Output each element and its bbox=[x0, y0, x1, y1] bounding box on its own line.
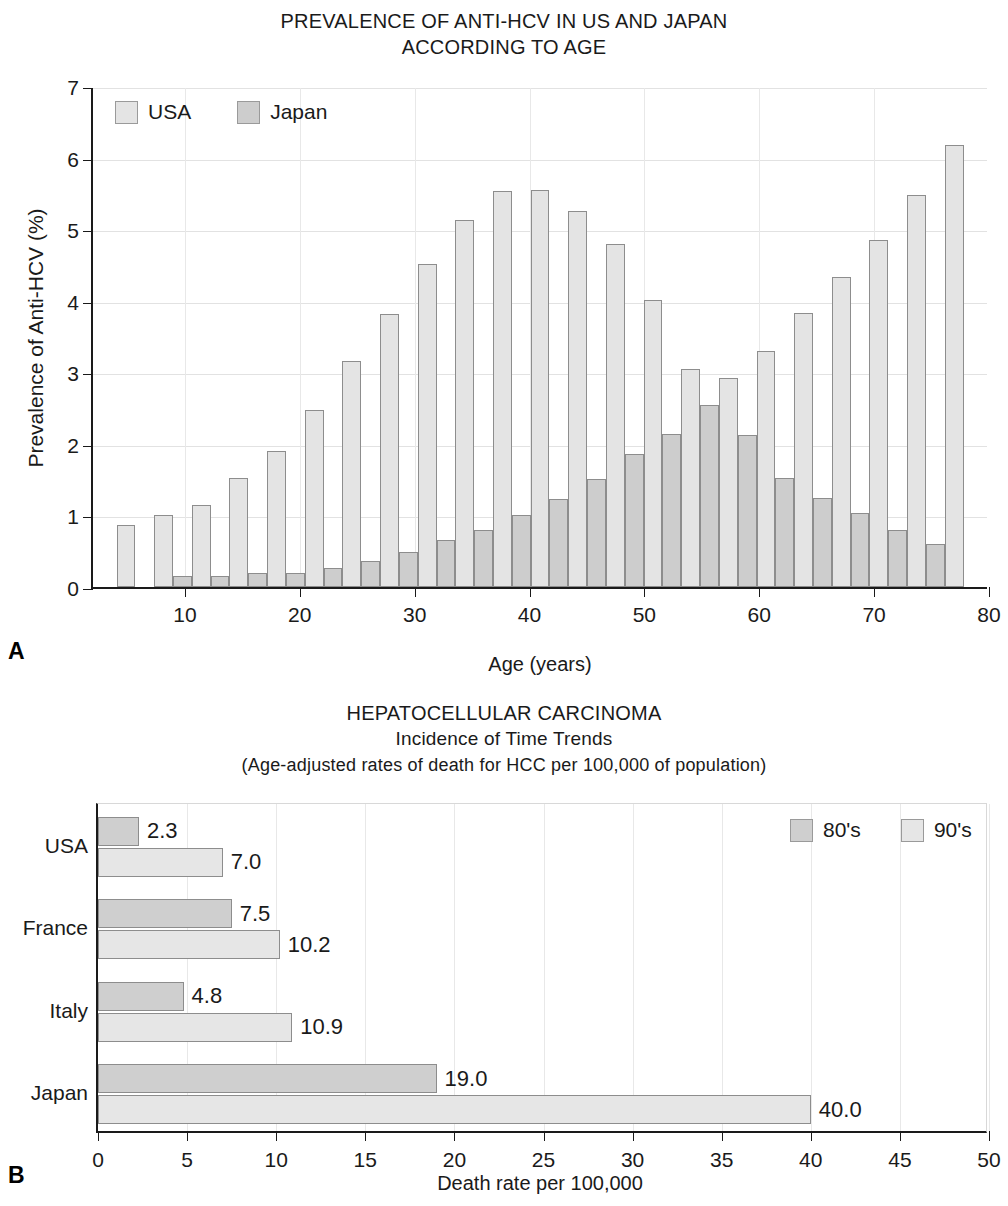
panel-a-title-line-1: PREVALENCE OF ANTI-HCV IN US AND JAPAN bbox=[0, 8, 1008, 34]
panel-b-plot-area: 051015202530354045502.37.07.510.24.810.9… bbox=[96, 803, 987, 1133]
panel-a-bar-usa bbox=[907, 195, 926, 587]
panel-a-bar-japan bbox=[437, 540, 456, 587]
panel-b-bar-80s bbox=[98, 1064, 437, 1093]
panel-a-bar-usa bbox=[418, 264, 437, 588]
panel-a-bar-usa bbox=[267, 451, 286, 587]
panel-b-x-tick bbox=[276, 1131, 277, 1141]
legend-item-usa: USA bbox=[115, 100, 191, 124]
panel-a-bar-usa bbox=[945, 145, 964, 587]
panel-b-title-line-3: (Age-adjusted rates of death for HCC per… bbox=[0, 752, 1008, 778]
panel-b-x-tick bbox=[633, 1131, 634, 1141]
panel-b-x-tick-label: 35 bbox=[710, 1148, 733, 1172]
panel-b-x-tick-label: 30 bbox=[621, 1148, 644, 1172]
panel-a-y-tick-label: 0 bbox=[55, 577, 79, 601]
panel-a-bar-japan bbox=[173, 576, 192, 587]
panel-b-x-tick bbox=[722, 1131, 723, 1141]
panel-a-x-tick bbox=[185, 587, 186, 597]
panel-a-bar-usa bbox=[305, 410, 324, 587]
panel-b-category-label: Italy bbox=[0, 999, 88, 1023]
panel-a-bar-usa bbox=[380, 314, 399, 587]
panel-a-x-tick bbox=[415, 587, 416, 597]
panel-b-x-tick bbox=[900, 1131, 901, 1141]
panel-a-bar-japan bbox=[625, 454, 644, 587]
panel-a-y-tick-label: 7 bbox=[55, 76, 79, 100]
panel-b-category-label: France bbox=[0, 916, 88, 940]
panel-b-x-tick-label: 50 bbox=[977, 1148, 1000, 1172]
panel-b-x-tick bbox=[454, 1131, 455, 1141]
panel-a-x-tick bbox=[759, 587, 760, 597]
panel-a-y-tick-label: 2 bbox=[55, 434, 79, 458]
panel-a-x-tick-label: 80 bbox=[977, 603, 1000, 627]
panel-b-legend: 80's90's bbox=[790, 818, 972, 842]
panel-a-bar-usa bbox=[794, 313, 813, 587]
panel-a-x-tick-label: 20 bbox=[288, 603, 311, 627]
panel-b-x-tick-label: 25 bbox=[532, 1148, 555, 1172]
panel-a-bar-japan bbox=[286, 573, 305, 587]
panel-b-title: HEPATOCELLULAR CARCINOMA Incidence of Ti… bbox=[0, 700, 1008, 778]
panel-a-bar-japan bbox=[211, 576, 230, 587]
legend-item-90s: 90's bbox=[901, 818, 972, 842]
panel-a-x-tick-label: 50 bbox=[633, 603, 656, 627]
panel-a-bar-usa bbox=[832, 277, 851, 587]
panel-a-x-tick bbox=[530, 587, 531, 597]
legend-swatch-japan-icon bbox=[237, 101, 260, 124]
panel-b-bar-80s bbox=[98, 982, 184, 1011]
panel-b-x-tick bbox=[187, 1131, 188, 1141]
legend-item-80s: 80's bbox=[790, 818, 861, 842]
legend-swatch-80s-icon bbox=[790, 819, 813, 842]
panel-a-x-tick bbox=[300, 587, 301, 597]
panel-a-x-tick-label: 10 bbox=[173, 603, 196, 627]
panel-a-y-tick bbox=[83, 231, 93, 232]
panel-a-bar-japan bbox=[248, 573, 267, 587]
panel-a-bar-usa bbox=[493, 191, 512, 588]
panel-b-title-line-2: Incidence of Time Trends bbox=[0, 726, 1008, 752]
panel-a-bar-usa bbox=[342, 361, 361, 587]
panel-a-bar-usa bbox=[606, 244, 625, 587]
panel-a-bar-japan bbox=[662, 434, 681, 587]
panel-a-x-tick-label: 40 bbox=[518, 603, 541, 627]
panel-a-bar-japan bbox=[888, 530, 907, 587]
panel-a-bar-usa bbox=[869, 240, 888, 587]
panel-a-x-tick bbox=[644, 587, 645, 597]
panel-a-gridline bbox=[93, 88, 987, 89]
panel-a-bar-usa bbox=[568, 211, 587, 587]
panel-a-title-line-2: ACCORDING TO AGE bbox=[0, 34, 1008, 60]
panel-b-gridline bbox=[900, 804, 901, 1131]
legend-label-80s: 80's bbox=[823, 818, 861, 842]
panel-a-x-tick bbox=[989, 587, 990, 597]
legend-swatch-90s-icon bbox=[901, 819, 924, 842]
panel-a-y-tick-label: 3 bbox=[55, 362, 79, 386]
panel-a-bar-japan bbox=[324, 568, 343, 587]
panel-a-bar-usa bbox=[719, 378, 738, 587]
panel-b-x-tick-label: 5 bbox=[181, 1148, 193, 1172]
panel-b-x-tick-label: 15 bbox=[354, 1148, 377, 1172]
panel-b-category-label: Japan bbox=[0, 1081, 88, 1105]
panel-b-value-label-80s: 2.3 bbox=[147, 818, 178, 844]
panel-b-value-label-90s: 10.9 bbox=[300, 1014, 343, 1040]
panel-b-value-label-90s: 40.0 bbox=[819, 1097, 862, 1123]
panel-a-bar-japan bbox=[474, 530, 493, 587]
panel-b-gridline bbox=[544, 804, 545, 1131]
panel-a-bar-japan bbox=[399, 552, 418, 587]
panel-a-y-tick bbox=[83, 589, 93, 590]
panel-a-bar-usa bbox=[531, 190, 550, 587]
panel-b-gridline bbox=[722, 804, 723, 1131]
panel-b-title-line-1: HEPATOCELLULAR CARCINOMA bbox=[0, 700, 1008, 726]
panel-b-bar-90s bbox=[98, 848, 223, 877]
panel-a-bar-japan bbox=[775, 478, 794, 588]
panel-a-plot-area: 012345671020304050607080 bbox=[91, 88, 987, 589]
panel-b-gridline bbox=[811, 804, 812, 1131]
legend-swatch-usa-icon bbox=[115, 101, 138, 124]
panel-a-bar-japan bbox=[587, 479, 606, 587]
panel-a-legend: USA Japan bbox=[115, 100, 327, 124]
panel-a-x-tick bbox=[874, 587, 875, 597]
panel-a-bar-usa bbox=[681, 369, 700, 587]
panel-b-x-tick bbox=[98, 1131, 99, 1141]
legend-label-japan: Japan bbox=[270, 100, 327, 124]
panel-b-value-label-90s: 7.0 bbox=[231, 849, 262, 875]
panel-a-bar-japan bbox=[738, 435, 757, 587]
panel-b-value-label-90s: 10.2 bbox=[288, 932, 331, 958]
panel-a-bar-usa bbox=[192, 505, 211, 587]
legend-label-90s: 90's bbox=[934, 818, 972, 842]
panel-b-bar-90s bbox=[98, 930, 280, 959]
